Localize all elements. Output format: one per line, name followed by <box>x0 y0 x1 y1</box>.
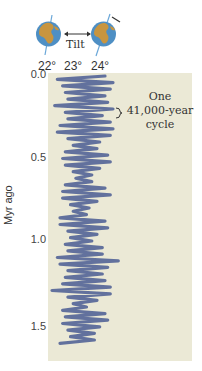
annotation-line-2: 41,000-year <box>118 104 202 118</box>
annotation-line-1: One <box>118 90 202 104</box>
obliquity-curve <box>0 0 202 371</box>
cycle-annotation: One 41,000-year cycle <box>118 90 202 132</box>
annotation-line-3: cycle <box>118 118 202 132</box>
